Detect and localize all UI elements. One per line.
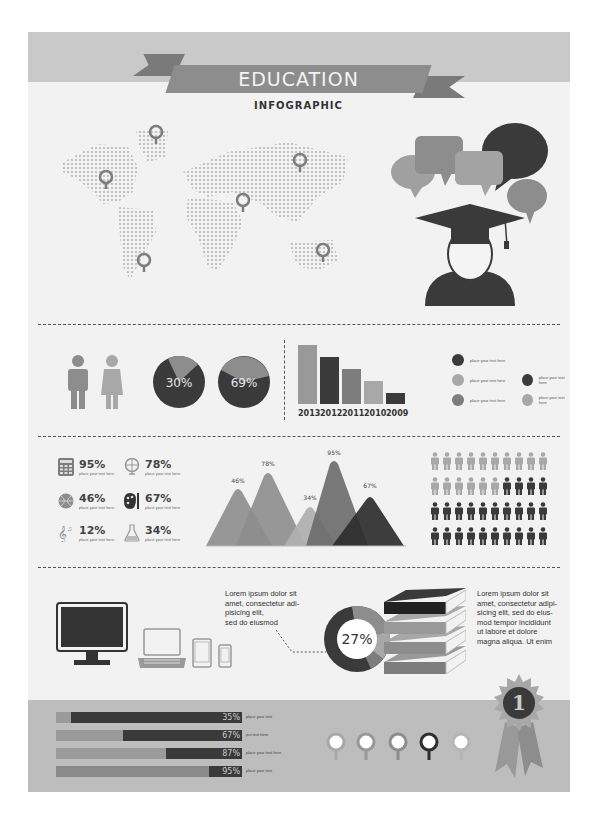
vertical-divider [284, 340, 285, 420]
stat-value: 34% [145, 524, 180, 537]
progress-value: 35% [222, 712, 240, 723]
person-icon [466, 502, 476, 520]
calculator-icon [58, 458, 74, 476]
progress-text: put text here [246, 732, 268, 737]
pie-chart-69: 69% [217, 354, 271, 410]
mountain-label: 95% [327, 450, 341, 456]
books-stack-icon [384, 588, 466, 680]
pins-row [320, 730, 480, 770]
connector-line [276, 630, 326, 660]
flask-icon [124, 524, 140, 542]
legend-item: place your text here [452, 354, 505, 366]
person-icon [442, 527, 452, 545]
stat-text: place your text here [145, 471, 180, 476]
female-icon [100, 355, 124, 409]
legend-item: place your text here [522, 394, 570, 406]
year-label: 2011 [342, 409, 364, 418]
person-icon [478, 477, 488, 495]
laptop-icon [138, 628, 186, 670]
mountain-label: 46% [231, 477, 245, 484]
person-icon [442, 502, 452, 520]
donut-label: 27% [341, 631, 372, 647]
person-icon [514, 527, 524, 545]
progress-text: place your text here [246, 750, 281, 755]
person-icon [502, 527, 512, 545]
person-icon [526, 527, 536, 545]
bar-2011 [342, 369, 361, 404]
person-icon [430, 452, 440, 470]
mountain-label: 34% [303, 494, 317, 501]
person-icon [502, 452, 512, 470]
stat-value: 12% [79, 524, 114, 537]
stat-text: place your text here [145, 505, 180, 510]
person-icon [466, 527, 476, 545]
person-icon [454, 452, 464, 470]
tablet-icon [192, 638, 212, 668]
svg-text:♫: ♫ [67, 525, 72, 532]
person-icon [478, 502, 488, 520]
globe-icon [124, 458, 140, 476]
monitor-icon [56, 602, 128, 668]
section-divider-2 [38, 436, 560, 437]
person-icon [514, 452, 524, 470]
mountain-chart: 46% 78% 34% 95% 67% [206, 450, 406, 550]
bar-2010 [364, 381, 383, 404]
legend-item: place your text here [452, 374, 505, 386]
bar-2013 [298, 345, 317, 404]
pie-label: 69% [231, 376, 258, 390]
person-icon [454, 527, 464, 545]
year-label: 2013 [298, 409, 320, 418]
person-icon [502, 477, 512, 495]
world-map [58, 122, 358, 312]
progress-value: 95% [222, 766, 240, 777]
person-icon [526, 477, 536, 495]
person-icon [454, 502, 464, 520]
progress-text: place your text [246, 768, 272, 773]
person-icon [430, 527, 440, 545]
male-icon [66, 355, 90, 409]
person-icon [502, 502, 512, 520]
person-icon [490, 477, 500, 495]
stat-item: 34%place your text here [124, 524, 180, 542]
pie-label: 30% [166, 376, 193, 390]
stat-value: 95% [79, 458, 114, 471]
section-divider-1 [38, 324, 560, 325]
bar-2012 [320, 357, 339, 404]
mountain-label: 78% [261, 460, 275, 467]
person-icon [478, 527, 488, 545]
palette-icon [124, 492, 140, 510]
stat-value: 78% [145, 458, 180, 471]
progress-value: 87% [222, 748, 240, 759]
person-icon [466, 452, 476, 470]
year-label: 2012 [320, 409, 342, 418]
award-badge-icon: 1 [487, 672, 551, 782]
pie-chart-30: 30% [152, 354, 206, 410]
person-icon [538, 502, 548, 520]
person-icon [526, 452, 536, 470]
person-icon [490, 502, 500, 520]
stat-text: place your text here [79, 471, 114, 476]
person-icon [514, 502, 524, 520]
music-note-icon: 𝄞♫ [58, 524, 74, 542]
phone-icon [218, 644, 232, 668]
books-description: Lorem ipsum dolor sitamet, consectetur a… [477, 589, 557, 646]
stat-text: place your text here [145, 537, 180, 542]
stat-item: 95%place your text here [58, 458, 114, 476]
person-icon [490, 452, 500, 470]
person-icon [478, 452, 488, 470]
year-label: 2010 [364, 409, 386, 418]
stat-item: 78%place your text here [124, 458, 180, 476]
legend-item: place your text here [452, 394, 505, 406]
infographic-page: EDUCATION INFOGRAPHIC [28, 32, 570, 792]
person-icon [526, 502, 536, 520]
person-icon [430, 502, 440, 520]
person-icon [442, 477, 452, 495]
basketball-icon [58, 492, 74, 510]
year-label: 2009 [386, 409, 408, 418]
stat-item: 𝄞♫ 12%place your text here [58, 524, 114, 542]
people-grid [430, 452, 550, 545]
stat-value: 67% [145, 492, 180, 505]
svg-text:𝄞: 𝄞 [58, 525, 67, 542]
person-icon [514, 477, 524, 495]
bar-2009 [386, 393, 405, 404]
